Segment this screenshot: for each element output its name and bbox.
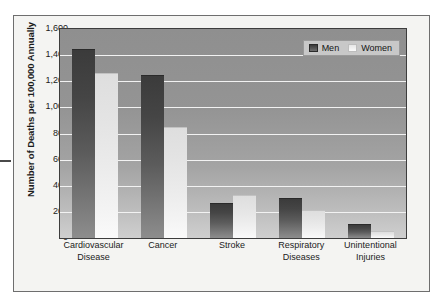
legend-entry: Men: [309, 43, 340, 53]
x-axis-category-line: Stroke: [197, 240, 266, 252]
bar-women: [302, 210, 325, 238]
legend-swatch-women-icon: [348, 44, 357, 52]
bars-layer: [60, 29, 406, 238]
legend-label: Men: [322, 43, 340, 53]
bar-group: [72, 29, 118, 238]
x-axis-category-line: Disease: [59, 252, 128, 264]
bar-women: [233, 195, 256, 238]
chart-legend: MenWomen: [303, 40, 400, 56]
bar-group: [210, 29, 256, 238]
x-axis-category-line: Respiratory: [267, 240, 336, 252]
x-axis-category-line: Injuries: [336, 252, 405, 264]
x-axis-category-label: CardiovascularDisease: [59, 240, 128, 263]
x-axis-category-labels: CardiovascularDiseaseCancerStrokeRespira…: [59, 240, 407, 280]
plot-area: MenWomen: [59, 28, 407, 239]
bar-group: [141, 29, 187, 238]
x-axis-category-line: Cancer: [128, 240, 197, 252]
legend-label: Women: [361, 43, 392, 53]
legend-entry: Women: [348, 43, 392, 53]
x-axis-category-label: Cancer: [128, 240, 197, 252]
x-axis-category-line: Diseases: [267, 252, 336, 264]
bar-group: [279, 29, 325, 238]
bar-women: [164, 127, 187, 238]
x-axis-category-line: Cardiovascular: [59, 240, 128, 252]
bar-group: [348, 29, 394, 238]
bar-women: [95, 73, 118, 238]
x-axis-category-line: Unintentional: [336, 240, 405, 252]
page-margin-tick: [0, 160, 11, 162]
bar-men: [279, 198, 302, 238]
bar-men: [141, 75, 164, 238]
x-axis-category-label: Stroke: [197, 240, 266, 252]
legend-swatch-men-icon: [309, 44, 318, 52]
x-axis-category-label: RespiratoryDiseases: [267, 240, 336, 263]
bar-women: [371, 231, 394, 238]
x-axis-category-label: UnintentionalInjuries: [336, 240, 405, 263]
figure-root: Number of Deaths per 100,000 Annually 02…: [0, 0, 447, 308]
bar-men: [72, 49, 95, 238]
bar-men: [210, 203, 233, 238]
bar-men: [348, 224, 371, 238]
